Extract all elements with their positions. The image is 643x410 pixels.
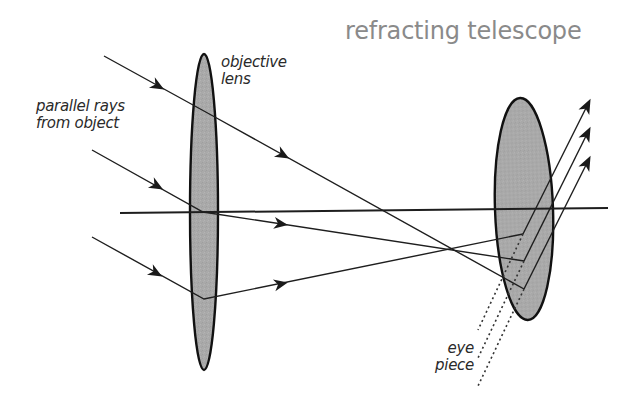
parallel-rays-label: parallel rays from object (36, 98, 125, 132)
arrow-icon (149, 77, 167, 94)
ray-top (104, 56, 524, 289)
arrow-icon (579, 96, 596, 115)
objective-label-line1: objective (221, 54, 287, 71)
arrow-icon (147, 264, 165, 281)
parallel-label-line2: from object (36, 115, 125, 132)
eyepiece-label-line1: eye (430, 340, 474, 357)
dotted-line-3 (478, 289, 524, 386)
eyepiece-label-line2: piece (430, 357, 474, 374)
ray-bottom (92, 234, 523, 299)
arrow-icon (579, 124, 596, 143)
arrow-icon (148, 177, 166, 194)
ray-middle (92, 150, 524, 261)
parallel-label-line1: parallel rays (36, 98, 125, 115)
eyepiece-label: eye piece (430, 340, 474, 374)
diagram-title: refracting telescope (345, 17, 581, 45)
arrow-icon (579, 153, 596, 172)
objective-lens-label: objective lens (221, 54, 287, 88)
arrow-icon (273, 217, 289, 231)
objective-label-line2: lens (221, 71, 287, 88)
arrow-icon (274, 146, 292, 163)
refracting-telescope-diagram (0, 0, 643, 410)
